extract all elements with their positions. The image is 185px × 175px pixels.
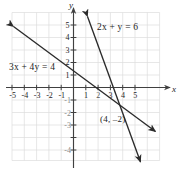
y-axis-label: y — [68, 0, 73, 10]
y-tick-label: -3 — [64, 121, 71, 130]
x-tick-label: 5 — [133, 91, 137, 100]
y-tick-label: 5 — [66, 21, 70, 30]
coordinate-plane: -5 -4 -3 -2 -1 1 2 3 4 5 5 4 3 2 1 -1 -2… — [0, 0, 185, 175]
equation-label-line2: 2x + y = 6 — [97, 22, 138, 32]
x-tick-label: -4 — [22, 91, 29, 100]
intersection-point-label: (4, –2) — [100, 114, 125, 124]
y-tick-label: -2 — [64, 109, 71, 118]
x-tick-label: -3 — [34, 91, 41, 100]
x-tick-label: 1 — [84, 91, 88, 100]
x-tick-label: 2 — [96, 91, 100, 100]
y-tick-label: -4 — [64, 146, 71, 155]
equation-label-line1: 3x + 4y = 4 — [9, 62, 55, 72]
line-3x-4y-4 — [14, 27, 156, 132]
x-tick-label: 4 — [121, 91, 125, 100]
y-tick-label: 4 — [66, 33, 70, 42]
x-tick-label: -2 — [46, 91, 53, 100]
y-tick-label: 1 — [66, 71, 70, 80]
graph-figure: -5 -4 -3 -2 -1 1 2 3 4 5 5 4 3 2 1 -1 -2… — [0, 0, 185, 175]
y-tick-label: 3 — [66, 46, 70, 55]
intersection-point-text: (4, –2) — [100, 114, 125, 124]
axis-lines — [6, 8, 170, 168]
equation-text-line2: 2x + y = 6 — [97, 22, 138, 32]
x-tick-label: -5 — [9, 91, 16, 100]
x-axis-label: x — [171, 84, 176, 94]
y-tick-label: -1 — [64, 96, 71, 105]
equation-text-line1: 3x + 4y = 4 — [9, 62, 55, 72]
line-2x-y-6 — [88, 17, 141, 163]
